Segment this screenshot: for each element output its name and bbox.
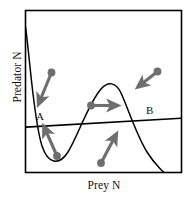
equilibrium-label-a: A bbox=[36, 110, 44, 122]
equilibrium-label-b: B bbox=[146, 104, 153, 116]
x-axis-label: Prey N bbox=[25, 179, 183, 191]
phase-plane-figure: A B Predator N Prey N bbox=[0, 0, 192, 198]
plot-area bbox=[0, 0, 192, 198]
plot-frame bbox=[26, 11, 182, 173]
y-axis-label: Predator N bbox=[11, 29, 23, 125]
